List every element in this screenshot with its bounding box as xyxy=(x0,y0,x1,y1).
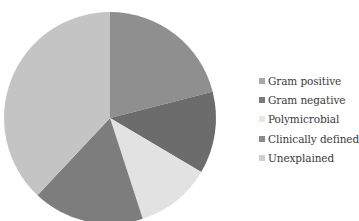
legend-swatch-icon xyxy=(259,116,265,122)
chart-legend: Gram positive Gram negative Polymicrobia… xyxy=(259,71,359,167)
legend-label: Clinically defined xyxy=(268,133,359,145)
legend-label: Polymicrobial xyxy=(268,113,339,125)
legend-item-gram-positive: Gram positive xyxy=(259,71,359,90)
legend-label: Unexplained xyxy=(268,152,334,164)
legend-label: Gram negative xyxy=(268,94,345,106)
legend-swatch-icon xyxy=(259,155,265,161)
legend-item-polymicrobial: Polymicrobial xyxy=(259,110,359,129)
pie-slices xyxy=(4,12,216,221)
legend-swatch-icon xyxy=(259,136,265,142)
legend-item-clinically-defined: Clinically defined xyxy=(259,129,359,148)
legend-item-gram-negative: Gram negative xyxy=(259,90,359,109)
legend-label: Gram positive xyxy=(268,75,341,87)
legend-swatch-icon xyxy=(259,78,265,84)
legend-swatch-icon xyxy=(259,97,265,103)
legend-item-unexplained: Unexplained xyxy=(259,148,359,167)
